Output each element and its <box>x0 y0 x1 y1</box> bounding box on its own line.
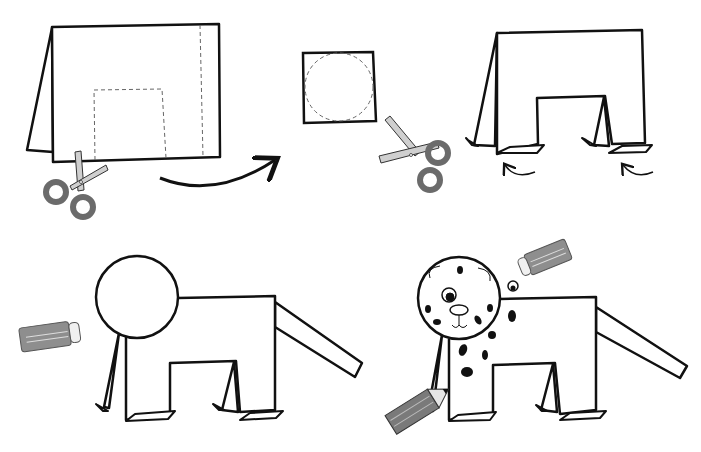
curved-arrow-icon <box>160 160 275 186</box>
glue-stick-icon <box>516 239 572 279</box>
craft-instructions-diagram <box>0 0 701 452</box>
step-1-folded-card <box>27 24 220 162</box>
curved-arrow-icon <box>505 165 535 175</box>
glue-stick-icon <box>19 320 82 352</box>
step-5-dalmatian <box>418 257 687 421</box>
pencil-icon <box>385 380 454 435</box>
curved-arrow-icon <box>623 165 653 175</box>
googly-eye-icon <box>508 281 518 291</box>
scissors-icon <box>379 116 448 190</box>
step-4-dog-assembled <box>96 256 362 421</box>
step-2-square-circle <box>303 52 376 123</box>
step-3-card-with-feet <box>466 30 652 154</box>
